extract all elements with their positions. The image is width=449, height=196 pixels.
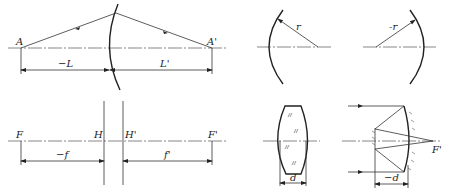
panel-radius-negative: -r — [363, 10, 436, 84]
glass-hatch — [285, 113, 298, 165]
ray-arrow-icon — [358, 104, 363, 108]
converging-ray-top — [375, 129, 433, 141]
label-A: A — [15, 36, 23, 47]
label-F: F — [15, 129, 24, 140]
ray-arrow-icon — [358, 170, 363, 174]
optics-sign-convention-diagram: A A' −L L' F H H' F' −f f' r -r — [0, 0, 449, 196]
label-minus-d: −d — [384, 172, 399, 183]
panel-thick-lens: d — [263, 106, 320, 186]
label-f-prime: f' — [163, 149, 170, 160]
reflected-ray-bottom — [375, 149, 404, 172]
label-A-prime: A' — [206, 36, 217, 47]
label-d: d — [290, 172, 296, 183]
converging-ray-bottom — [375, 141, 433, 149]
panel-radius-positive: r — [257, 10, 333, 84]
panel-focal-principal-points: F H H' F' −f f' — [8, 101, 228, 185]
refracting-surface — [109, 4, 120, 90]
panel-mirror-system: −d F' — [342, 104, 442, 188]
label-H-prime: H' — [124, 129, 136, 140]
label-F-prime: F' — [431, 144, 442, 155]
label-L-prime: L' — [159, 58, 169, 69]
label-r: r — [296, 21, 302, 32]
label-minus-L: −L — [58, 58, 73, 69]
panel-object-image-distance: A A' −L L' — [8, 4, 228, 90]
label-minus-r: -r — [389, 21, 398, 32]
label-F-prime: F' — [207, 129, 218, 140]
incident-ray — [21, 13, 116, 48]
label-H: H — [93, 129, 103, 140]
refracted-ray — [116, 13, 212, 48]
primary-mirror — [404, 106, 409, 172]
reflected-ray-top — [375, 106, 404, 129]
label-minus-f: −f — [56, 149, 70, 160]
